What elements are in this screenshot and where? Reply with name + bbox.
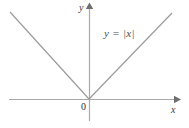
- equation-label: y = |x|: [104, 28, 135, 39]
- x-axis-arrowhead: [174, 96, 181, 103]
- y-axis-arrowhead: [86, 3, 93, 10]
- abs-curve-right-branch: [89, 13, 172, 99]
- y-axis-label: y: [79, 3, 83, 13]
- x-axis-label: x: [171, 105, 175, 115]
- absolute-value-graph-figure: y x 0 y = |x|: [0, 0, 189, 128]
- origin-label: 0: [81, 102, 86, 112]
- graph-canvas: [0, 0, 189, 128]
- abs-curve-left-branch: [10, 12, 89, 99]
